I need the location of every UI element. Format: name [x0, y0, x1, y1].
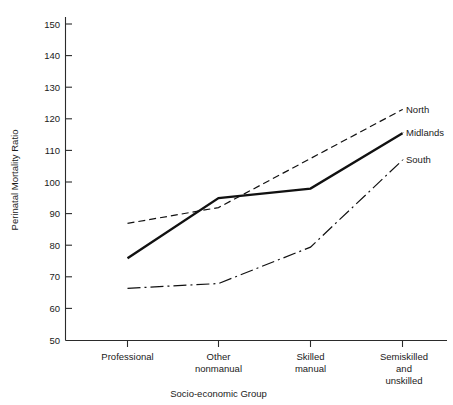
y-tick-label-120: 120	[44, 113, 60, 124]
series-line-midlands	[128, 133, 403, 258]
y-tick-label-110: 110	[45, 145, 60, 156]
y-tick-label-140: 140	[44, 50, 60, 61]
series-leader-lines	[403, 109, 404, 160]
series-label-south: South	[406, 154, 431, 165]
x-tick-label-skilled: Skilled	[297, 351, 325, 362]
y-tick-label-50: 50	[49, 335, 60, 346]
series-label-north: North	[406, 104, 429, 115]
y-tick-label-100: 100	[44, 177, 60, 188]
y-tick-label-80: 80	[49, 240, 60, 251]
x-axis-title: Socio-economic Group	[170, 388, 267, 399]
y-tick-label-60: 60	[49, 303, 60, 314]
y-axis-ticks	[66, 24, 73, 308]
x-tick-label-unskilled: unskilled	[386, 375, 423, 386]
series-line-south	[128, 160, 403, 288]
y-tick-label-150: 150	[44, 19, 60, 30]
x-tick-label-other: Other	[207, 351, 231, 362]
y-tick-label-90: 90	[49, 208, 60, 219]
x-tick-label-manual: manual	[295, 363, 326, 374]
series-label-midlands: Midlands	[406, 127, 444, 138]
y-tick-label-70: 70	[49, 271, 60, 282]
x-tick-label-professional: Professional	[101, 351, 153, 362]
x-axis-ticks	[128, 341, 403, 348]
series-line-north	[128, 109, 403, 223]
series-labels: North Midlands South	[406, 104, 444, 165]
leader-line-midlands	[403, 133, 404, 134]
x-tick-label-and: and	[396, 363, 412, 374]
chart-container: 150 140 130 120 110 100 90 80 70 60 50 P…	[0, 0, 453, 405]
data-series-group	[128, 109, 403, 288]
x-axis-category-labels: Professional Other nonmanual Skilled man…	[101, 351, 428, 386]
perinatal-mortality-line-chart: 150 140 130 120 110 100 90 80 70 60 50 P…	[0, 0, 453, 405]
leader-line-south	[403, 160, 404, 161]
y-tick-label-130: 130	[44, 82, 60, 93]
y-axis-tick-labels: 150 140 130 120 110 100 90 80 70 60 50	[44, 19, 60, 346]
x-tick-label-nonmanual: nonmanual	[195, 363, 242, 374]
y-axis-title: Perinatal Mortality Ratio	[9, 130, 20, 231]
x-tick-label-semiskilled: Semiskilled	[380, 351, 428, 362]
